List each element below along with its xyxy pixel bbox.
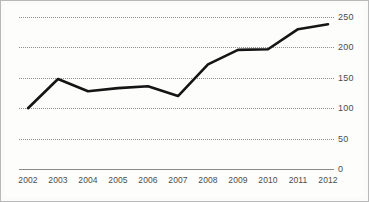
series-line-path: [28, 24, 328, 108]
line-series-plot: [1, 1, 369, 202]
chart-frame: 050100150200250 200220032004200520062007…: [0, 0, 369, 202]
